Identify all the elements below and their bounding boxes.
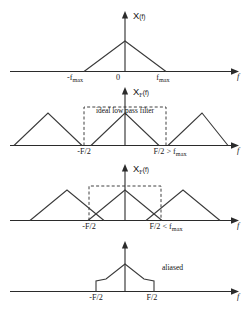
panel4-aliased-label: aliased: [162, 263, 183, 272]
panel-sampled-no-aliasing: XF(f) ideal low pass filter -F/2 F/2 > f…: [10, 86, 241, 157]
panel1-xtick-right: fmax: [156, 73, 170, 83]
panel1-y-arrowhead: [122, 11, 128, 19]
panel4-xtick-right: F/2: [147, 293, 158, 302]
panel2-xtick-left: -F/2: [77, 147, 91, 156]
panel4-x-axis-label: f: [237, 291, 241, 301]
panel1-xtick-center: 0: [116, 73, 120, 82]
panel1-y-axis-label: X(f): [133, 10, 146, 21]
panel-baseband: X(f) -fmax 0 fmax f: [10, 10, 241, 83]
panel-aliased-result: aliased -F/2 F/2 f: [10, 241, 241, 302]
panel2-xtick-right: F/2 > fmax: [153, 147, 187, 157]
panel3-xtick-left: -F/2: [82, 222, 96, 231]
panel1-x-axis-label: f: [237, 71, 241, 81]
panel2-y-arrowhead: [122, 87, 128, 95]
sampling-aliasing-diagram: X(f) -fmax 0 fmax f XF(f) ideal low pass…: [0, 0, 251, 322]
panel3-x-axis-label: f: [237, 220, 241, 230]
panel-sampled-aliasing: XF(f) -F/2 F/2 < fmax f: [10, 163, 241, 232]
panel4-xtick-left: -F/2: [89, 293, 103, 302]
panel2-replica-right: [168, 113, 228, 146]
panel3-y-arrowhead: [122, 164, 128, 172]
panel3-y-axis-label: XF(f): [133, 163, 149, 175]
panel3-xtick-right: F/2 < fmax: [149, 222, 183, 232]
panel4-y-arrowhead: [122, 241, 128, 249]
panel1-xtick-left: -fmax: [67, 73, 84, 83]
figure-container: X(f) -fmax 0 fmax f XF(f) ideal low pass…: [0, 0, 251, 322]
panel2-y-axis-label: XF(f): [133, 86, 149, 98]
panel2-replica-left: [14, 113, 82, 146]
panel2-x-axis-label: f: [237, 145, 241, 155]
panel2-filter-label: ideal low pass filter: [96, 106, 155, 115]
